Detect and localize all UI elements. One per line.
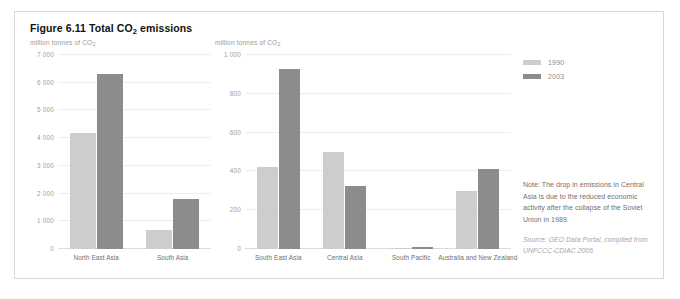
figure-title: Figure 6.11 Total CO2 emissions [30,22,192,34]
bar-left-0-2003[interactable] [97,74,123,249]
bars-left-1 [135,55,212,249]
bars-left-0 [58,55,135,249]
y-tick-label-right-800: 800 [230,89,241,96]
y-axis-caption-left-text: million tonnes of CO [30,39,92,46]
bars-right-0 [245,55,312,249]
category-label-left-0: North East Asia [73,254,119,261]
y-tick-label-left-2000: 2 000 [37,189,54,196]
bar-group-right-2: South Pacific [378,55,445,249]
legend-label-1990: 1990 [548,59,564,66]
bar-right-0-1990[interactable] [257,167,278,249]
y-tick-label-left-0: 0 [50,245,54,252]
legend-swatch-1990 [523,60,541,65]
y-axis-caption-right: million tonnes of CO2 [215,39,280,46]
y-axis-caption-right-subscript: 2 [277,41,280,47]
y-tick-label-right-1000: 1 000 [224,51,241,58]
note-block: Note: The drop in emissions in Central A… [523,179,649,257]
category-label-left-1: South Asia [157,254,189,261]
source-text: Source: GEO Data Portal, compiled from U… [523,235,649,257]
bar-left-1-2003[interactable] [173,199,199,249]
y-axis-caption-left: million tonnes of CO2 [30,39,95,46]
y-tick-label-right-400: 400 [230,167,241,174]
figure-container: Figure 6.11 Total CO2 emissions million … [14,11,664,279]
category-label-right-3: Australia and New Zealand [438,254,517,261]
bar-group-left-1: South Asia [135,55,212,249]
category-label-right-1: Central Asia [327,254,363,261]
y-tick-label-left-1000: 1 000 [37,217,54,224]
plot-area-right: 02004006008001 000South East AsiaCentral… [245,55,511,249]
y-axis-caption-right-text: million tonnes of CO [215,39,277,46]
note-text: Note: The drop in emissions in Central A… [523,179,649,225]
bar-group-right-1: Central Asia [312,55,379,249]
chart-right-panel: million tonnes of CO2 02004006008001 000… [215,39,515,271]
y-tick-label-left-5000: 5 000 [37,106,54,113]
bar-right-1-1990[interactable] [323,152,344,249]
y-tick-label-right-200: 200 [230,206,241,213]
legend-item-2003[interactable]: 2003 [523,73,564,80]
bar-left-0-1990[interactable] [70,133,96,249]
bar-right-3-2003[interactable] [478,169,499,249]
chart-left-panel: million tonnes of CO2 01 0002 0003 0004 … [30,39,215,271]
y-tick-label-left-6000: 6 000 [37,78,54,85]
bar-group-right-3: Australia and New Zealand [445,55,512,249]
bars-right-3 [445,55,512,249]
bar-right-2-2003[interactable] [412,247,433,249]
legend-swatch-2003 [523,74,541,79]
category-label-right-0: South East Asia [255,254,302,261]
figure-title-prefix: Figure 6.11 Total CO [30,22,133,34]
bar-right-0-2003[interactable] [279,69,300,249]
y-tick-label-right-0: 0 [237,245,241,252]
legend-label-2003: 2003 [548,73,564,80]
bars-right-2 [378,55,445,249]
y-tick-label-left-4000: 4 000 [37,134,54,141]
bar-right-2-1990[interactable] [390,248,411,249]
y-tick-label-left-7000: 7 000 [37,51,54,58]
legend-item-1990[interactable]: 1990 [523,59,564,66]
bar-right-3-1990[interactable] [456,191,477,249]
bar-left-1-1990[interactable] [146,230,172,249]
chart-legend: 19902003 [523,59,564,87]
category-label-right-2: South Pacific [392,254,431,261]
figure-title-subscript: 2 [133,27,137,36]
figure-title-suffix: emissions [137,22,192,34]
bar-right-1-2003[interactable] [345,186,366,249]
bar-group-right-0: South East Asia [245,55,312,249]
y-tick-label-left-3000: 3 000 [37,161,54,168]
y-axis-caption-left-subscript: 2 [92,41,95,47]
plot-area-left: 01 0002 0003 0004 0005 0006 0007 000Nort… [58,55,211,249]
bars-right-1 [312,55,379,249]
y-tick-label-right-600: 600 [230,128,241,135]
bar-group-left-0: North East Asia [58,55,135,249]
